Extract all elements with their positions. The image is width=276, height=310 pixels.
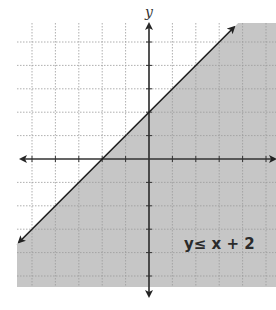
inequality-label: y≤ x + 2 xyxy=(184,235,255,253)
coordinate-plane: y y≤ x + 2 xyxy=(0,0,276,310)
inequality-graph: y y≤ x + 2 xyxy=(0,0,276,310)
y-axis-label: y xyxy=(144,4,154,20)
